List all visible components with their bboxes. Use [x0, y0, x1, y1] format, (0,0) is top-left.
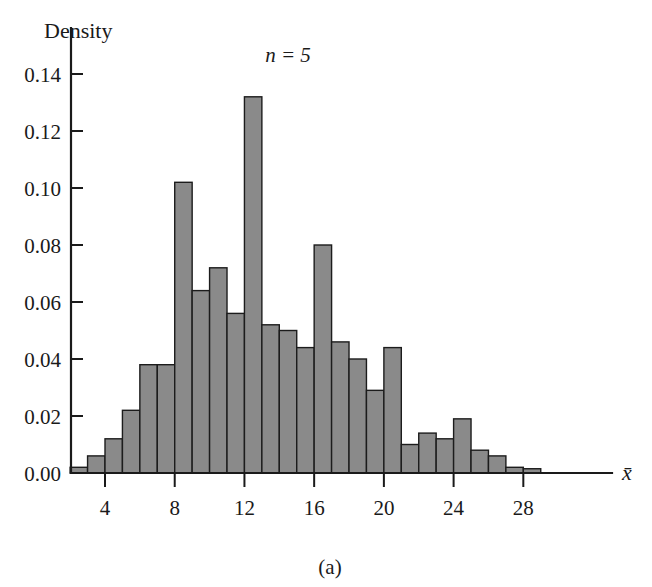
- histogram-bar: [227, 313, 244, 473]
- histogram-bar: [314, 245, 331, 473]
- x-axis-tick-label: 20: [373, 496, 394, 520]
- histogram-bar: [88, 456, 105, 473]
- histogram-bar: [366, 390, 383, 473]
- x-axis-tick-label: 4: [100, 496, 111, 520]
- histogram-bar: [210, 268, 227, 473]
- histogram-bar: [419, 433, 436, 473]
- histogram-bar: [175, 182, 192, 473]
- histogram-bar: [454, 419, 471, 473]
- y-axis-tick-label: 0.04: [24, 348, 61, 372]
- histogram-chart: 0.000.020.040.060.080.100.120.14 4812162…: [0, 0, 652, 587]
- histogram-bar: [244, 97, 261, 473]
- y-axis-tick-label: 0.12: [24, 120, 61, 144]
- histogram-bars: [70, 97, 541, 473]
- histogram-bar: [471, 450, 488, 473]
- x-axis-ticks: 481216202428: [100, 473, 534, 520]
- y-axis-tick-label: 0.06: [24, 291, 61, 315]
- histogram-bar: [349, 359, 366, 473]
- y-axis-ticks: 0.000.020.040.060.080.100.120.14: [24, 63, 83, 486]
- histogram-bar: [401, 445, 418, 474]
- histogram-bar: [297, 348, 314, 473]
- x-axis-tick-label: 16: [304, 496, 325, 520]
- histogram-bar: [140, 365, 157, 473]
- histogram-bar: [105, 439, 122, 473]
- y-axis-tick-label: 0.10: [24, 177, 61, 201]
- y-axis-tick-label: 0.08: [24, 234, 61, 258]
- sample-size-annotation: n = 5: [265, 43, 311, 67]
- y-axis-title: Density: [44, 18, 112, 43]
- histogram-bar: [436, 439, 453, 473]
- x-axis-tick-label: 28: [513, 496, 534, 520]
- histogram-figure: 0.000.020.040.060.080.100.120.14 4812162…: [0, 0, 652, 587]
- histogram-bar: [488, 456, 505, 473]
- histogram-bar: [332, 342, 349, 473]
- histogram-bar: [157, 365, 174, 473]
- y-axis-tick-label: 0.00: [24, 462, 61, 486]
- figure-caption: (a): [318, 555, 341, 579]
- x-axis-tick-label: 12: [234, 496, 255, 520]
- x-axis-tick-label: 8: [169, 496, 180, 520]
- x-axis-tick-label: 24: [443, 496, 465, 520]
- histogram-bar: [262, 325, 279, 473]
- histogram-bar: [192, 291, 209, 473]
- y-axis-tick-label: 0.02: [24, 405, 61, 429]
- y-axis-tick-label: 0.14: [24, 63, 61, 87]
- histogram-bar: [122, 410, 139, 473]
- x-axis-title: x̄: [621, 460, 632, 485]
- histogram-bar: [279, 331, 296, 474]
- histogram-bar: [384, 348, 401, 473]
